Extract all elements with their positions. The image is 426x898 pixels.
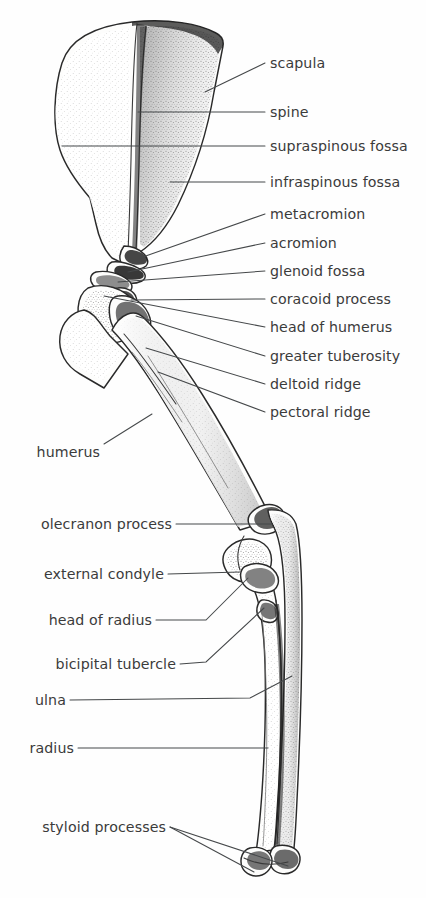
leader-ulna	[70, 676, 292, 700]
label-styloid-processes: styloid processes	[42, 819, 166, 835]
label-metacromion: metacromion	[270, 206, 365, 222]
label-infraspinous-fossa: infraspinous fossa	[270, 174, 400, 190]
infraspinous-fossa-gradient	[140, 26, 220, 247]
label-deltoid-ridge: deltoid ridge	[270, 376, 361, 392]
leader-styloid-radius	[170, 827, 254, 872]
leader-humerus	[104, 414, 152, 444]
label-head-of-humerus: head of humerus	[270, 319, 392, 335]
label-external-condyle: external condyle	[44, 566, 164, 582]
label-pectoral-ridge: pectoral ridge	[270, 404, 371, 420]
label-acromion: acromion	[270, 235, 337, 251]
label-bicipital-tubercle: bicipital tubercle	[56, 656, 176, 672]
label-glenoid-fossa: glenoid fossa	[270, 263, 365, 279]
label-ulna: ulna	[35, 692, 66, 708]
label-greater-tuberosity: greater tuberosity	[270, 348, 400, 364]
label-coracoid-process: coracoid process	[270, 291, 391, 307]
leader-acromion	[128, 243, 265, 272]
humerus-bone-group	[60, 286, 285, 582]
label-supraspinous-fossa: supraspinous fossa	[270, 138, 408, 154]
label-head-of-radius: head of radius	[49, 612, 152, 628]
label-spine: spine	[270, 104, 309, 120]
scapula-bone-group	[55, 21, 223, 305]
leader-coracoid-process	[131, 299, 265, 300]
label-radius: radius	[30, 740, 74, 756]
forelimb-skeleton-illustration: scapula spine supraspinous fossa infrasp…	[0, 0, 426, 898]
leader-head-of-radius	[156, 578, 248, 620]
label-humerus: humerus	[37, 444, 100, 460]
anatomical-figure: scapula spine supraspinous fossa infrasp…	[0, 0, 426, 898]
leader-bicipital-tubercle	[180, 608, 264, 664]
label-scapula: scapula	[270, 55, 325, 71]
label-olecranon-process: olecranon process	[41, 516, 172, 532]
